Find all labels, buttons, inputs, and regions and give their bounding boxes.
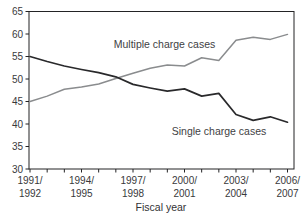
y-tick-label: 45 [12,96,24,107]
x-axis-title: Fiscal year [136,201,187,213]
y-tick-label: 65 [12,6,24,17]
y-tick-label: 55 [12,51,24,62]
x-tick-label-line1: 2006/ [275,175,300,186]
y-axis: 3035404550556065 [12,6,29,175]
x-tick-label-line2: 2007 [276,188,299,199]
x-tick-label-line2: 2001 [173,188,196,199]
line-chart: 30354045505560651991/19921994/19951997/1… [0,0,303,219]
single-charge-label: Single charge cases [172,125,267,137]
x-tick-label-line1: 2003/ [223,175,248,186]
x-tick-label-line2: 1992 [19,188,42,199]
x-tick-label-line1: 1991/ [17,175,42,186]
y-tick-label: 35 [12,141,24,152]
x-tick-label-line1: 1994/ [69,175,94,186]
y-tick-label: 60 [12,29,24,40]
x-tick-label-line2: 2004 [225,188,248,199]
y-tick-label: 30 [12,164,24,175]
x-tick-label-line1: 1997/ [120,175,145,186]
x-tick-label-line1: 2000/ [172,175,197,186]
x-axis: 1991/19921994/19951997/19982000/20012003… [17,169,300,199]
y-tick-label: 50 [12,74,24,85]
chart-figure: 30354045505560651991/19921994/19951997/1… [0,0,303,219]
y-tick-label: 40 [12,119,24,130]
multiple-charge-label: Multiple charge cases [114,38,216,50]
x-tick-label-line2: 1998 [122,188,145,199]
x-tick-label-line2: 1995 [70,188,93,199]
